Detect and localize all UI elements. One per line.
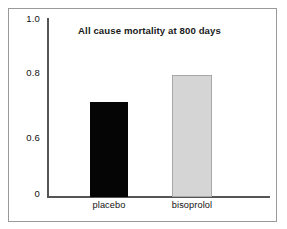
- y-axis-line: [47, 18, 49, 197]
- bar-placebo: [90, 102, 128, 197]
- x-tick-label-bisoprolol: bisoprolol: [159, 200, 225, 210]
- y-tick-label-1-0: 1.0: [14, 13, 40, 24]
- y-tick-label-0: 0: [14, 188, 40, 199]
- bar-chart-plot-area: All cause mortality at 800 days 1.0 0.8 …: [0, 0, 287, 229]
- figure-container: All cause mortality at 800 days 1.0 0.8 …: [0, 0, 287, 229]
- x-tick-label-placebo: placebo: [79, 200, 139, 210]
- bar-bisoprolol: [172, 75, 212, 197]
- chart-title: All cause mortality at 800 days: [62, 25, 237, 36]
- y-tick-label-0-6: 0.6: [14, 132, 40, 143]
- y-tick-label-0-8: 0.8: [14, 67, 40, 78]
- x-axis-line: [47, 196, 270, 198]
